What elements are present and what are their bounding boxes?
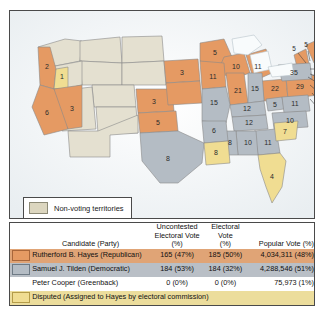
label-WV: 5 — [273, 101, 277, 108]
us-electoral-map: 2 1 6 3 3 3 5 5 11 10 21 11 15 15 22 29 … — [10, 11, 314, 218]
label-MN: 5 — [213, 49, 217, 56]
uncontested-value: 184 (53%) — [149, 263, 205, 277]
label-GA: 11 — [264, 139, 271, 146]
table-row: Rutherford B. Hayes (Republican) 165 (47… — [10, 249, 314, 263]
candidate-name: Samuel J. Tilden (Democratic) — [32, 263, 149, 277]
label-NE: 3 — [180, 69, 184, 76]
header-electoral: Electoral Vote (%) — [205, 223, 245, 249]
map-legend: Non-voting territories — [23, 197, 132, 219]
label-IA: 11 — [209, 73, 216, 80]
label-NV: 3 — [70, 105, 74, 112]
label-MO: 15 — [210, 99, 218, 106]
label-TX: 8 — [166, 155, 170, 162]
label-CO: 3 — [152, 98, 156, 105]
label-TN: 12 — [245, 119, 253, 126]
label-AR: 6 — [212, 127, 216, 134]
label-WI: 10 — [232, 63, 240, 70]
label-NC: 10 — [286, 117, 294, 124]
popular-value: 4,288,546 (51%) — [246, 263, 314, 277]
table-header-row: Candidate (Party) Uncontested Electoral … — [10, 223, 314, 249]
disputed-label: Disputed (Assigned to Hayes by electoral… — [32, 291, 314, 305]
label-IN: 15 — [251, 85, 259, 92]
electoral-value: 184 (32%) — [205, 263, 245, 277]
state-MT-territory — [122, 36, 164, 63]
uncontested-value: 165 (47%) — [149, 249, 205, 263]
label-VA: 11 — [291, 100, 298, 107]
disputed-row: Disputed (Assigned to Hayes by electoral… — [10, 291, 314, 305]
label-MS: 8 — [228, 139, 232, 146]
uncontested-value: 0 (0%) — [149, 277, 205, 291]
table-body: Rutherford B. Hayes (Republican) 165 (47… — [10, 249, 314, 305]
electoral-map-panel: 2 1 6 3 3 3 5 5 11 10 21 11 15 15 22 29 … — [9, 10, 315, 219]
label-NY: 35 — [290, 69, 298, 76]
disputed-swatch — [12, 292, 30, 303]
table-row: Samuel J. Tilden (Democratic) 184 (53%) … — [10, 263, 314, 277]
header-electoral-line3: (%) — [205, 240, 245, 249]
candidate-name: Rutherford B. Hayes (Republican) — [32, 249, 149, 263]
tilden-swatch — [12, 264, 30, 275]
label-SC: 7 — [283, 128, 287, 135]
header-popular: Popular Vote (%) — [246, 223, 314, 249]
label-CA: 6 — [45, 109, 49, 116]
header-candidate: Candidate (Party) — [32, 223, 149, 249]
results-table: Candidate (Party) Uncontested Electoral … — [10, 223, 314, 305]
row-swatch-cell — [10, 249, 32, 263]
state-ID-MT-territory — [80, 37, 122, 63]
label-OR-disputed: 1 — [60, 73, 64, 80]
candidate-name: Peter Cooper (Greenback) — [32, 277, 149, 291]
legend-label: Non-voting territories — [54, 204, 124, 213]
label-OR: 2 — [45, 63, 49, 70]
hayes-swatch — [12, 250, 30, 261]
label-IL: 21 — [234, 87, 242, 94]
label-MI: 11 — [254, 63, 261, 70]
disputed-swatch-cell — [10, 291, 32, 305]
popular-value: 75,973 (1%) — [246, 277, 314, 291]
row-swatch-cell — [10, 277, 32, 291]
header-uncontested: Uncontested Electoral Vote (%) — [149, 223, 205, 249]
non-voting-territories-swatch — [29, 202, 48, 214]
label-KS: 5 — [156, 119, 160, 126]
state-WY-territory — [92, 85, 136, 107]
table-row: Peter Cooper (Greenback) 0 (0%) 0 (0%) 7… — [10, 277, 314, 291]
electoral-value: 185 (50%) — [205, 249, 245, 263]
label-KY: 12 — [243, 105, 251, 112]
label-LA: 8 — [214, 149, 218, 156]
election-map-infographic: 2 1 6 3 3 3 5 5 11 10 21 11 15 15 22 29 … — [0, 0, 322, 332]
label-AL: 10 — [244, 139, 252, 146]
table-header: Candidate (Party) Uncontested Electoral … — [10, 223, 314, 249]
state-NE-south — [166, 81, 202, 105]
electoral-value: 0 (0%) — [205, 277, 245, 291]
header-uncontested-line3: (%) — [149, 240, 205, 249]
label-VT: 5 — [292, 45, 296, 52]
state-ID-territory — [80, 61, 122, 85]
label-NH: 5 — [304, 41, 308, 48]
header-swatch-spacer — [10, 223, 32, 249]
state-WY-territory-n — [122, 61, 166, 85]
label-FL: 4 — [270, 173, 274, 180]
label-PA: 29 — [296, 83, 304, 90]
row-swatch-cell — [10, 263, 32, 277]
results-table-container: Candidate (Party) Uncontested Electoral … — [9, 222, 315, 306]
popular-value: 4,034,311 (48%) — [246, 249, 314, 263]
label-OH: 22 — [271, 85, 279, 92]
